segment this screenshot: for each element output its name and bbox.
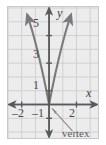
y-tick-label-1: 1 (33, 79, 39, 91)
x-tick-label-negative-2: –2 (12, 107, 24, 119)
y-tick-label-5: 5 (33, 17, 39, 29)
x-axis-label: x (86, 87, 91, 99)
y-tick-label-3: 3 (33, 48, 39, 60)
x-tick-label-2: 2 (69, 107, 75, 119)
vertex-annotation-label: vertex (62, 128, 89, 139)
parabola-figure: 5 3 1 –1 –2 2 x y vertex (0, 0, 106, 145)
y-tick-label-negative-1: –1 (32, 107, 44, 119)
y-axis-label: y (57, 7, 62, 19)
